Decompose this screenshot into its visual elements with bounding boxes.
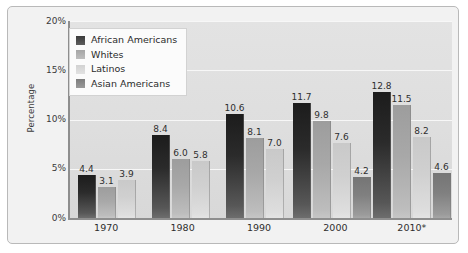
bar[interactable]: 3.1 xyxy=(98,187,116,218)
bar-value-label: 6.0 xyxy=(173,148,187,158)
legend-swatch-icon xyxy=(76,65,85,74)
legend-item-label: Whites xyxy=(91,50,124,60)
bar-value-label: 7.0 xyxy=(267,138,281,148)
bar-value-label: 11.5 xyxy=(391,94,411,104)
bar-group: 10.68.17.0 xyxy=(218,21,292,218)
bar[interactable]: 7.6 xyxy=(333,143,351,218)
x-axis-tick-label: 2000 xyxy=(297,222,373,233)
bar-value-label: 4.2 xyxy=(354,166,368,176)
bar-value-label: 4.4 xyxy=(79,164,93,174)
bar[interactable]: 4.6 xyxy=(433,173,451,218)
y-axis-tick-label: 20% xyxy=(32,17,66,26)
bar-value-label: 9.8 xyxy=(314,110,328,120)
bar[interactable]: 11.7 xyxy=(293,103,311,218)
legend-item[interactable]: Latinos xyxy=(76,63,177,75)
bar-slot: 8.1 xyxy=(247,21,264,218)
bar[interactable]: 12.8 xyxy=(373,92,391,218)
y-axis-tick-label: 5% xyxy=(32,164,66,173)
bar-value-label: 4.6 xyxy=(434,162,448,172)
x-axis-tick-label: 1970 xyxy=(68,222,144,233)
legend-item[interactable]: Whites xyxy=(76,49,177,61)
bar[interactable]: 8.4 xyxy=(152,135,170,218)
bar-value-label: 3.1 xyxy=(99,176,113,186)
bar-slot: 11.7 xyxy=(294,21,311,218)
y-axis-tick-label: 0% xyxy=(32,214,66,223)
chart-frame: Percentage 0%5%10%15%20% 4.43.13.98.46.0… xyxy=(7,6,459,244)
bar-slot: 4.6 xyxy=(434,21,451,218)
bar[interactable]: 4.2 xyxy=(353,177,371,218)
chart-figure: Percentage 0%5%10%15%20% 4.43.13.98.46.0… xyxy=(0,0,468,253)
bar[interactable]: 4.4 xyxy=(78,175,96,218)
y-axis-tick-label: 15% xyxy=(32,66,66,75)
bar[interactable]: 6.0 xyxy=(172,159,190,218)
legend-swatch-icon xyxy=(76,36,85,45)
chart-legend: African AmericansWhitesLatinosAsian Amer… xyxy=(69,28,187,96)
bar[interactable]: 11.5 xyxy=(393,105,411,218)
bar-slot: 8.2 xyxy=(414,21,431,218)
bar-slot: 10.6 xyxy=(227,21,244,218)
bar-value-label: 11.7 xyxy=(291,92,311,102)
bar-slot: 7.6 xyxy=(334,21,351,218)
x-axis-tick-label: 1990 xyxy=(221,222,297,233)
legend-item-label: African Americans xyxy=(91,35,177,45)
legend-item[interactable]: Asian Americans xyxy=(76,78,177,90)
x-axis-tick-label: 2010* xyxy=(374,222,450,233)
bar-value-label: 8.1 xyxy=(247,127,261,137)
legend-swatch-icon xyxy=(76,79,85,88)
legend-swatch-icon xyxy=(76,50,85,59)
bar-group: 12.811.58.24.6 xyxy=(372,21,452,218)
bar[interactable]: 5.8 xyxy=(192,161,210,218)
bar-slot: 5.8 xyxy=(193,21,210,218)
bar-value-label: 10.6 xyxy=(224,103,244,113)
bar-slot: 4.2 xyxy=(354,21,371,218)
bar[interactable]: 3.9 xyxy=(118,180,136,218)
bar[interactable]: 9.8 xyxy=(313,121,331,218)
y-axis-tick-label: 10% xyxy=(32,115,66,124)
legend-item[interactable]: African Americans xyxy=(76,34,177,46)
bar-slot: 11.5 xyxy=(394,21,411,218)
y-axis-tick-labels: 0%5%10%15%20% xyxy=(28,7,66,245)
bar-value-label: 7.6 xyxy=(334,132,348,142)
bar[interactable]: 7.0 xyxy=(266,149,284,218)
bar-value-label: 8.2 xyxy=(414,126,428,136)
bar[interactable]: 10.6 xyxy=(226,114,244,218)
bar-value-label: 5.8 xyxy=(193,150,207,160)
x-axis-tick-label: 1980 xyxy=(144,222,220,233)
x-axis-tick-labels: 19701980199020002010* xyxy=(68,222,450,233)
bar-group: 11.79.87.64.2 xyxy=(292,21,372,218)
bar[interactable]: 8.1 xyxy=(246,138,264,218)
legend-item-label: Asian Americans xyxy=(91,79,170,89)
bar[interactable]: 8.2 xyxy=(413,137,431,218)
bar-value-label: 8.4 xyxy=(153,124,167,134)
bar-slot: 9.8 xyxy=(314,21,331,218)
bar-slot: 12.8 xyxy=(374,21,391,218)
bar-value-label: 12.8 xyxy=(371,81,391,91)
bar-slot: 7.0 xyxy=(267,21,284,218)
legend-item-label: Latinos xyxy=(91,64,125,74)
bar-value-label: 3.9 xyxy=(119,169,133,179)
